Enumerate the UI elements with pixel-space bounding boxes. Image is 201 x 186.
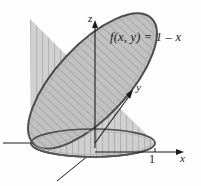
solid-region-diagram bbox=[0, 0, 201, 186]
z-axis-arrowhead bbox=[92, 20, 98, 28]
z-axis-label: z bbox=[88, 12, 92, 24]
y-axis-label: y bbox=[136, 81, 141, 93]
figure-canvas: z y x 1 f(x, y) = 1 – x bbox=[0, 0, 201, 186]
function-equation-label: f(x, y) = 1 – x bbox=[110, 30, 181, 45]
x-axis-tick-label-1: 1 bbox=[149, 152, 155, 167]
x-axis-label: x bbox=[180, 152, 185, 164]
